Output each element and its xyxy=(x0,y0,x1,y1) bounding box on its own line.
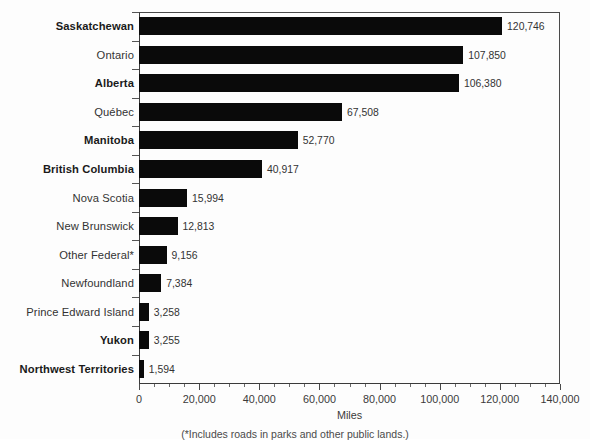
x-axis-minor-tick xyxy=(515,384,516,387)
x-axis-major-tick xyxy=(560,384,561,390)
category-label: Yukon xyxy=(100,334,134,346)
bar-container: 67,508 xyxy=(139,103,342,121)
bar-value-label: 107,850 xyxy=(468,49,506,60)
x-axis-minor-tick xyxy=(350,384,351,387)
category-label: Northwest Territories xyxy=(20,363,134,375)
y-axis-tick xyxy=(132,297,139,298)
bar-container: 40,917 xyxy=(139,160,262,178)
y-axis-tick xyxy=(132,12,139,13)
x-axis-major-tick xyxy=(380,384,381,390)
y-axis-tick xyxy=(132,155,139,156)
x-axis-title: Miles xyxy=(139,409,560,421)
category-label: Nova Scotia xyxy=(73,192,134,204)
x-axis-tick-label: 60,000 xyxy=(303,393,336,405)
bar-row: Québec67,508 xyxy=(0,98,590,127)
bar-value-label: 40,917 xyxy=(267,164,299,175)
bar xyxy=(139,103,342,121)
bar-container: 120,746 xyxy=(139,17,502,35)
bar-value-label: 15,994 xyxy=(192,192,224,203)
bar-container: 3,258 xyxy=(139,303,149,321)
bar-row: British Columbia40,917 xyxy=(0,155,590,184)
bar xyxy=(139,217,178,235)
x-axis-minor-tick xyxy=(289,384,290,387)
bar-value-label: 12,813 xyxy=(183,221,215,232)
bar-row: Nova Scotia15,994 xyxy=(0,183,590,212)
category-label: Saskatchewan xyxy=(56,20,134,32)
x-axis-minor-tick xyxy=(304,384,305,387)
x-axis-major-tick xyxy=(440,384,441,390)
bar xyxy=(139,274,161,292)
bar-container: 15,994 xyxy=(139,189,187,207)
x-axis-tick-label: 80,000 xyxy=(363,393,396,405)
y-axis-tick xyxy=(132,240,139,241)
bar-row: Newfoundland7,384 xyxy=(0,269,590,298)
bar-value-label: 7,384 xyxy=(166,278,192,289)
x-axis-tick-label: 0 xyxy=(136,393,142,405)
category-label: New Brunswick xyxy=(56,220,134,232)
bar-container: 52,770 xyxy=(139,131,298,149)
x-axis-minor-tick xyxy=(184,384,185,387)
category-label: Prince Edward Island xyxy=(26,306,134,318)
x-axis-minor-tick xyxy=(395,384,396,387)
bar xyxy=(139,160,262,178)
bar-container: 107,850 xyxy=(139,46,463,64)
category-label: British Columbia xyxy=(43,163,134,175)
bar xyxy=(139,246,167,264)
chart-footnote: (*Includes roads in parks and other publ… xyxy=(0,428,590,440)
bar-row: Saskatchewan120,746 xyxy=(0,12,590,41)
y-axis-tick xyxy=(132,126,139,127)
bar-container: 12,813 xyxy=(139,217,178,235)
bar-value-label: 1,594 xyxy=(149,363,175,374)
y-axis-tick xyxy=(132,212,139,213)
x-axis-tick-label: 40,000 xyxy=(243,393,276,405)
bar-value-label: 3,258 xyxy=(154,306,180,317)
x-axis-minor-tick xyxy=(214,384,215,387)
bar-row: Northwest Territories1,594 xyxy=(0,355,590,384)
category-label: Newfoundland xyxy=(61,277,134,289)
y-axis-tick xyxy=(132,69,139,70)
x-axis-minor-tick xyxy=(169,384,170,387)
x-axis-major-tick xyxy=(500,384,501,390)
bar-row: Manitoba52,770 xyxy=(0,126,590,155)
x-axis-tick-label: 140,000 xyxy=(540,393,579,405)
bar-row: Prince Edward Island3,258 xyxy=(0,297,590,326)
bar-container: 106,380 xyxy=(139,74,459,92)
x-axis-major-tick xyxy=(199,384,200,390)
bar-value-label: 106,380 xyxy=(464,78,502,89)
bar xyxy=(139,331,149,349)
bar xyxy=(139,46,463,64)
x-axis-major-tick xyxy=(259,384,260,390)
x-axis-minor-tick xyxy=(229,384,230,387)
bar-container: 9,156 xyxy=(139,246,167,264)
category-label: Ontario xyxy=(97,49,134,61)
x-axis-minor-tick xyxy=(455,384,456,387)
x-axis-tick-label: 20,000 xyxy=(183,393,216,405)
bar-row: Yukon3,255 xyxy=(0,326,590,355)
x-axis-minor-tick xyxy=(470,384,471,387)
y-axis-tick xyxy=(132,326,139,327)
x-axis-minor-tick xyxy=(530,384,531,387)
bar-value-label: 67,508 xyxy=(347,106,379,117)
category-label: Alberta xyxy=(95,77,134,89)
category-label: Manitoba xyxy=(84,134,134,146)
bar-row: Ontario107,850 xyxy=(0,41,590,70)
y-axis-tick xyxy=(132,98,139,99)
bar-rows: Saskatchewan120,746Ontario107,850Alberta… xyxy=(0,12,590,383)
x-axis-minor-tick xyxy=(425,384,426,387)
bar-value-label: 9,156 xyxy=(172,249,198,260)
x-axis-tick-label: 100,000 xyxy=(420,393,459,405)
y-axis-tick xyxy=(132,183,139,184)
bar-row: Other Federal*9,156 xyxy=(0,240,590,269)
bar-row: New Brunswick12,813 xyxy=(0,212,590,241)
x-axis-minor-tick xyxy=(274,384,275,387)
x-axis-tick-label: 120,000 xyxy=(480,393,519,405)
category-label: Other Federal* xyxy=(59,249,134,261)
y-axis-tick xyxy=(132,41,139,42)
x-axis-minor-tick xyxy=(334,384,335,387)
bar-container: 3,255 xyxy=(139,331,149,349)
y-axis-tick xyxy=(132,269,139,270)
bar-value-label: 3,255 xyxy=(154,335,180,346)
x-axis-minor-tick xyxy=(365,384,366,387)
x-axis-major-tick xyxy=(319,384,320,390)
